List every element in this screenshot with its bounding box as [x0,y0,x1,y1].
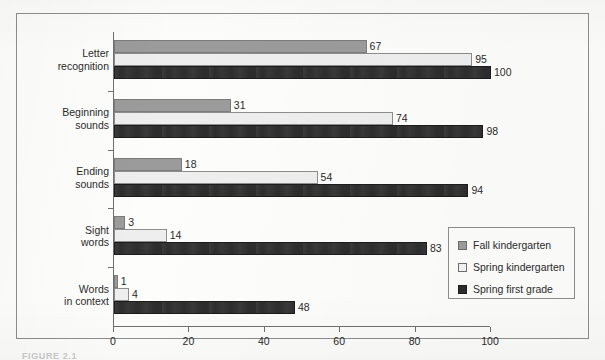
bar-row: 31 [114,99,490,112]
bar-value-label: 74 [393,111,408,125]
legend-item: Fall kindergarten [458,235,574,255]
category-label-line: Ending [35,165,109,178]
bar-value-label: 31 [231,98,246,112]
chart-legend: Fall kindergarten Spring kindergarten Sp… [448,227,575,299]
bar [114,242,427,255]
category-label-line: sounds [35,178,109,191]
bar-value-label: 18 [182,157,197,171]
bar-value-label: 14 [167,228,182,242]
legend-label: Spring first grade [473,283,553,295]
category-label-line: Words [35,283,109,296]
bar-row: 83 [114,242,490,255]
value-axis-tick [188,327,189,332]
category-label: Endingsounds [35,165,109,190]
value-axis-tick [264,327,265,332]
legend-label: Spring kindergarten [473,261,565,273]
category-label: Wordsin context [35,283,109,308]
category-label-line: in context [35,295,109,308]
bar-row: 18 [114,158,490,171]
category-axis-tick [108,208,113,209]
category-label-line: words [35,236,109,249]
bar-row: 100 [114,66,490,79]
category-label-line: sounds [35,119,109,132]
bar-value-label: 48 [295,300,310,314]
bar [114,216,125,229]
bar-value-label: 3 [125,215,134,229]
bar-group: 6795100 [114,40,490,79]
bar-group: 185494 [114,158,490,197]
bar-value-label: 95 [472,52,487,66]
bar-row: 95 [114,53,490,66]
value-axis-tick [113,327,114,332]
value-axis-tick-label: 0 [110,335,116,347]
value-axis-line [113,326,490,327]
legend-label: Fall kindergarten [473,239,551,251]
figure-frame: LetterrecognitionBeginningsoundsEndingso… [16,13,589,339]
value-axis-tick-label: 100 [481,335,499,347]
value-axis-tick-label: 60 [333,335,345,347]
bar [114,184,468,197]
bar [114,40,367,53]
legend-swatch-spring-first-grade [458,285,467,294]
bar-row: 67 [114,40,490,53]
bar-value-label: 1 [118,274,127,288]
bar [114,158,182,171]
category-label-line: recognition [35,60,109,73]
legend-swatch-fall-kindergarten [458,241,467,250]
legend-item: Spring first grade [458,279,574,299]
category-axis-tick [108,150,113,151]
bar [114,99,231,112]
bar-row: 1 [114,275,490,288]
value-axis-tick [490,327,491,332]
value-axis-tick [415,327,416,332]
bar-row: 74 [114,112,490,125]
value-axis-tick-label: 40 [258,335,270,347]
category-axis-labels: LetterrecognitionBeginningsoundsEndingso… [33,32,109,326]
bar [114,66,491,79]
bar-row: 94 [114,184,490,197]
bar-group: 1448 [114,275,490,314]
bar-value-label: 98 [483,124,498,138]
bar-value-label: 83 [427,241,442,255]
bar [114,301,295,314]
bar-row: 54 [114,171,490,184]
value-axis-tick-label: 20 [183,335,195,347]
category-axis-tick [108,91,113,92]
plot-area: 6795100317498185494314831448 02040608010… [113,32,490,326]
value-axis-tick-label: 80 [409,335,421,347]
figure-caption: FIGURE 2.1 [22,351,77,360]
bar-value-label: 4 [129,287,138,301]
bar-value-label: 94 [468,183,483,197]
bar [114,53,472,66]
bar-value-label: 54 [318,170,333,184]
category-axis-tick [108,267,113,268]
bar-group: 317498 [114,99,490,138]
bar-row: 98 [114,125,490,138]
legend-swatch-spring-kindergarten [458,263,467,272]
bar-row: 48 [114,301,490,314]
category-label: Beginningsounds [35,106,109,131]
category-label-line: Sight [35,224,109,237]
category-label-line: Beginning [35,106,109,119]
figure-page: LetterrecognitionBeginningsoundsEndingso… [0,0,605,360]
category-label-line: Letter [35,47,109,60]
category-label: Letterrecognition [35,47,109,72]
bar [114,125,483,138]
value-axis-tick [339,327,340,332]
legend-item: Spring kindergarten [458,257,574,277]
bar [114,288,129,301]
category-label: Sightwords [35,224,109,249]
bar [114,171,318,184]
bar [114,112,393,125]
bar-value-label: 67 [367,39,382,53]
bar [114,229,167,242]
bar-group: 31483 [114,216,490,255]
bar-value-label: 100 [491,65,512,79]
